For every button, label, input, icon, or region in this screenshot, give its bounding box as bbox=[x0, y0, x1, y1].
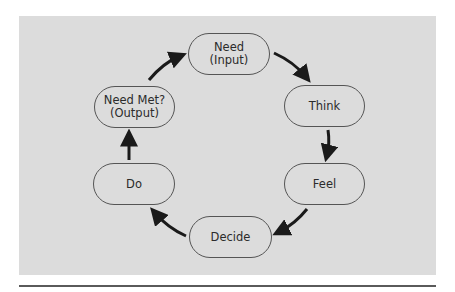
node-need-label: Need (Input) bbox=[210, 41, 249, 67]
node-feel: Feel bbox=[284, 163, 365, 205]
node-need: Need (Input) bbox=[188, 33, 270, 75]
bottom-rule bbox=[19, 285, 436, 287]
node-think-label: Think bbox=[309, 100, 340, 113]
node-need-met-label: Need Met? (Output) bbox=[104, 94, 165, 120]
node-think: Think bbox=[284, 85, 365, 127]
node-do: Do bbox=[93, 163, 175, 205]
node-decide-label: Decide bbox=[211, 231, 251, 244]
node-feel-label: Feel bbox=[313, 178, 336, 191]
node-decide: Decide bbox=[189, 216, 272, 258]
node-do-label: Do bbox=[126, 178, 142, 191]
node-need-met: Need Met? (Output) bbox=[94, 86, 175, 128]
